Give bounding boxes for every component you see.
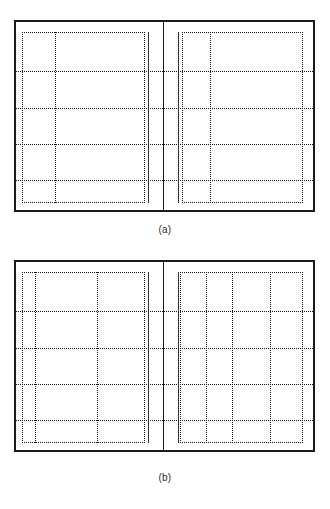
figure-b-caption: (b) — [0, 472, 330, 483]
panel-b-right-dotted-region — [180, 272, 303, 443]
panel-b-left-inner-dotted-vertical-1 — [35, 272, 36, 443]
figure-a-center-divider — [163, 20, 164, 212]
panel-a-right-inner-dotted-vertical-1 — [210, 32, 211, 203]
figure-root: (a) (b) — [0, 0, 330, 509]
panel-b-left-solid-vertical-line — [148, 272, 149, 443]
panel-b-right-solid-vertical-line — [178, 272, 179, 443]
panel-a-left-inner-dotted-vertical-1 — [55, 32, 56, 203]
panel-b-right-inner-dotted-vertical-2 — [232, 272, 233, 443]
panel-a-right-solid-vertical-line — [178, 32, 179, 203]
panel-a-right-dotted-region — [182, 32, 303, 203]
figure-a-caption: (a) — [0, 224, 330, 235]
panel-b-right-inner-dotted-vertical-1 — [206, 272, 207, 443]
diagram-render-layer — [0, 0, 330, 509]
panel-a-left-solid-vertical-line — [148, 32, 149, 203]
panel-b-left-dotted-region — [22, 272, 145, 443]
panel-a-left-dotted-region — [22, 32, 145, 203]
figure-b-center-divider — [163, 260, 164, 452]
panel-b-left-inner-dotted-vertical-2 — [97, 272, 98, 443]
panel-b-right-inner-dotted-vertical-3 — [270, 272, 271, 443]
